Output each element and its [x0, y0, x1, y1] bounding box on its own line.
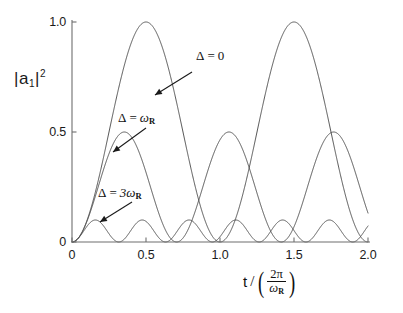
plot-svg — [0, 0, 403, 313]
x-label-slash: / — [250, 273, 254, 290]
annot-delta-zero-arrow-head — [155, 89, 162, 95]
annot-delta-omega: Δ=ωR — [118, 110, 155, 126]
annot-delta-omega-delta: Δ — [118, 110, 126, 125]
annot-delta-3omega-equals: = — [109, 185, 116, 200]
x-tick-label-3: 1.5 — [286, 248, 303, 262]
y-label-base: a — [19, 69, 29, 88]
annot-delta-zero: Δ=0 — [196, 48, 224, 64]
x-label-denominator: ωR — [267, 282, 286, 295]
y-tick-label-0: 0 — [20, 235, 66, 249]
x-label-fraction: 2π ωR — [267, 268, 286, 295]
x-tick-label-4: 2.0 — [360, 248, 377, 262]
y-label-superscript: 2 — [40, 68, 46, 79]
annot-delta-omega-arrow-head — [113, 146, 120, 153]
y-tick-label-2: 1.0 — [20, 15, 66, 29]
x-tick-label-0: 0 — [69, 248, 76, 262]
y-label-subscript: 1 — [29, 78, 35, 89]
x-label-numerator: 2π — [268, 268, 285, 281]
annot-delta-3omega-value: 3ωR — [120, 185, 142, 200]
x-label-variable: t — [243, 273, 247, 290]
y-tick-label-1: 0.5 — [20, 125, 66, 139]
annot-delta-3omega: Δ=3ωR — [98, 185, 142, 201]
annot-delta-zero-value: 0 — [218, 48, 225, 63]
x-label-open-paren: ( — [258, 270, 264, 293]
annot-delta-3omega-arrow-head — [100, 216, 107, 222]
rabi-oscillation-figure: |a1|2 t / ( 2π ωR ) 00.51.01.52.000.51.0… — [0, 0, 403, 313]
y-axis-label: |a1|2 — [14, 68, 46, 89]
annot-delta-3omega-delta: Δ — [98, 185, 106, 200]
x-label-close-paren: ) — [289, 270, 295, 293]
annot-delta-omega-equals: = — [129, 110, 136, 125]
annot-delta-omega-value: ωR — [140, 110, 155, 125]
x-axis-label: t / ( 2π ωR ) — [243, 268, 297, 295]
annot-delta-zero-delta: Δ — [196, 48, 204, 63]
x-tick-label-1: 0.5 — [138, 248, 155, 262]
annot-delta-zero-equals: = — [207, 48, 214, 63]
x-tick-label-2: 1.0 — [212, 248, 229, 262]
